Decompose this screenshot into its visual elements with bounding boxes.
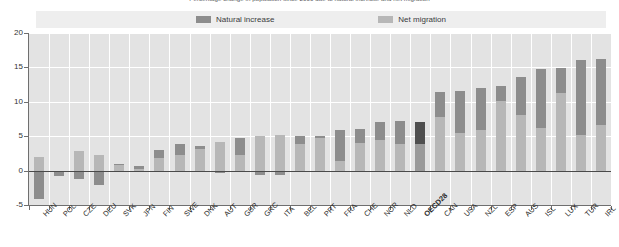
gridline-vertical bbox=[210, 33, 211, 205]
bar-segment-net-migration bbox=[576, 135, 586, 171]
x-tick-mark bbox=[29, 206, 30, 210]
gridline-vertical bbox=[49, 33, 50, 205]
gridline-vertical bbox=[471, 33, 472, 205]
bar-segment-net-migration bbox=[375, 140, 385, 170]
bar-segment-natural-increase bbox=[355, 129, 365, 143]
bar-segment-net-migration bbox=[235, 155, 245, 171]
bar-segment-net-migration bbox=[395, 144, 405, 170]
y-tick-label: 5 bbox=[2, 131, 23, 140]
bar-segment-net-migration bbox=[175, 155, 185, 170]
bar-segment-net-migration bbox=[455, 133, 465, 171]
bar-segment-natural-increase bbox=[295, 136, 305, 145]
legend-label-natural-increase: Natural increase bbox=[216, 15, 274, 24]
bar-segment-natural-increase bbox=[34, 171, 44, 200]
bar-segment-net-migration bbox=[94, 155, 104, 171]
y-tick-mark bbox=[24, 136, 29, 137]
y-tick-label: -5 bbox=[2, 200, 23, 209]
bar-segment-natural-increase bbox=[556, 68, 566, 93]
gridline-vertical bbox=[591, 33, 592, 205]
gridline-vertical bbox=[290, 33, 291, 205]
bar-segment-net-migration bbox=[34, 157, 44, 171]
bar-segment-net-migration bbox=[275, 135, 285, 171]
bar-segment-natural-increase bbox=[74, 171, 84, 179]
legend-entry-natural-increase: Natural increase bbox=[196, 15, 274, 24]
gridline-vertical bbox=[491, 33, 492, 205]
bar-segment-natural-increase bbox=[455, 91, 465, 132]
y-tick-label: 15 bbox=[2, 62, 23, 71]
legend-label-net-migration: Net migration bbox=[398, 15, 446, 24]
y-tick-label: 10 bbox=[2, 97, 23, 106]
gridline-vertical bbox=[450, 33, 451, 205]
gridline-vertical bbox=[370, 33, 371, 205]
chart-legend: Natural increase Net migration bbox=[36, 11, 606, 28]
bar-segment-net-migration bbox=[536, 128, 546, 171]
gridline-vertical bbox=[350, 33, 351, 205]
y-tick-label: 20 bbox=[2, 28, 23, 37]
bar-segment-net-migration bbox=[415, 144, 425, 171]
x-tick-label: ITA bbox=[282, 204, 296, 218]
bar-segment-net-migration bbox=[335, 161, 345, 171]
y-tick-label: 0 bbox=[2, 166, 23, 175]
bar-segment-natural-increase bbox=[235, 138, 245, 155]
legend-entry-net-migration: Net migration bbox=[378, 15, 446, 24]
gridline-vertical bbox=[330, 33, 331, 205]
y-axis-line bbox=[28, 33, 29, 205]
bar-segment-natural-increase bbox=[476, 88, 486, 130]
chart-title: Percentage change in population since 20… bbox=[0, 0, 619, 2]
bar-segment-natural-increase bbox=[435, 92, 445, 117]
gridline-vertical bbox=[149, 33, 150, 205]
gridline-vertical bbox=[190, 33, 191, 205]
bar-segment-natural-increase bbox=[596, 59, 606, 125]
gridline-vertical bbox=[270, 33, 271, 205]
bar-segment-net-migration bbox=[435, 117, 445, 171]
bar-segment-natural-increase bbox=[375, 122, 385, 140]
legend-swatch-net-migration bbox=[378, 16, 393, 23]
bar-segment-net-migration bbox=[215, 142, 225, 171]
plot-area bbox=[29, 33, 611, 205]
y-tick-mark bbox=[24, 67, 29, 68]
gridline-vertical bbox=[310, 33, 311, 205]
bar-segment-natural-increase bbox=[395, 121, 405, 144]
bar-segment-net-migration bbox=[255, 136, 265, 171]
bar-segment-natural-increase bbox=[195, 146, 205, 149]
bar-segment-net-migration bbox=[596, 125, 606, 170]
gridline-vertical bbox=[69, 33, 70, 205]
x-tick-label: IRL bbox=[603, 204, 618, 219]
bar-segment-net-migration bbox=[476, 130, 486, 171]
chart-figure: Percentage change in population since 20… bbox=[0, 0, 619, 247]
gridline-vertical bbox=[511, 33, 512, 205]
gridline-vertical bbox=[430, 33, 431, 205]
bar-segment-natural-increase bbox=[536, 69, 546, 128]
legend-swatch-natural-increase bbox=[196, 16, 211, 23]
y-tick-mark bbox=[24, 33, 29, 34]
bar-segment-natural-increase bbox=[114, 164, 124, 165]
gridline-vertical bbox=[89, 33, 90, 205]
gridline-horizontal bbox=[29, 33, 611, 34]
bar-segment-net-migration bbox=[516, 115, 526, 171]
gridline-vertical bbox=[169, 33, 170, 205]
bar-segment-natural-increase bbox=[496, 86, 506, 101]
bar-segment-natural-increase bbox=[54, 172, 64, 176]
bar-segment-natural-increase bbox=[576, 60, 586, 135]
bar-segment-net-migration bbox=[496, 101, 506, 170]
bar-segment-natural-increase bbox=[154, 150, 164, 158]
gridline-vertical bbox=[410, 33, 411, 205]
bar-segment-net-migration bbox=[556, 93, 566, 171]
gridline-vertical bbox=[390, 33, 391, 205]
zero-baseline bbox=[29, 171, 611, 172]
bar-segment-natural-increase bbox=[94, 171, 104, 185]
gridline-vertical bbox=[571, 33, 572, 205]
bar-segment-net-migration bbox=[154, 158, 164, 170]
bar-segment-natural-increase bbox=[415, 122, 425, 144]
bar-segment-natural-increase bbox=[315, 136, 325, 139]
bar-segment-natural-increase bbox=[134, 166, 144, 169]
gridline-vertical bbox=[250, 33, 251, 205]
gridline-vertical bbox=[531, 33, 532, 205]
gridline-vertical bbox=[230, 33, 231, 205]
gridline-vertical bbox=[551, 33, 552, 205]
x-tick-label: ISL bbox=[543, 204, 557, 218]
gridline-vertical bbox=[129, 33, 130, 205]
bar-segment-net-migration bbox=[195, 149, 205, 170]
bar-segment-natural-increase bbox=[175, 144, 185, 155]
bar-segment-net-migration bbox=[315, 138, 325, 170]
